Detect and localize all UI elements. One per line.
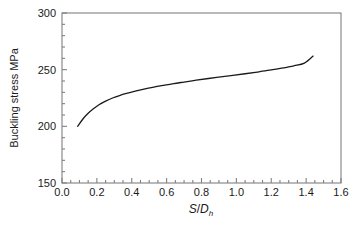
x-tick-label: 0.8 (194, 186, 209, 198)
x-tick-label: 0.2 (89, 186, 104, 198)
y-axis-tick-labels: 150200250300 (38, 7, 56, 189)
figure-container: 0.00.20.40.60.81.01.21.41.6 150200250300… (0, 0, 361, 225)
y-tick-label: 250 (38, 64, 56, 76)
y-tick-label: 150 (38, 177, 56, 189)
y-axis-title: Buckling stress MPa (8, 47, 20, 148)
x-tick-label: 0.0 (54, 186, 69, 198)
x-tick-label: 1.2 (264, 186, 279, 198)
buckling-stress-chart: 0.00.20.40.60.81.01.21.41.6 150200250300… (0, 0, 361, 225)
x-axis-title-denominator: D (200, 202, 209, 216)
x-tick-label: 1.4 (298, 186, 313, 198)
x-axis-title-subscript: h (209, 209, 214, 218)
plot-frame (62, 13, 341, 183)
x-tick-label: 0.4 (124, 186, 139, 198)
y-tick-label: 200 (38, 120, 56, 132)
x-axis-tick-labels: 0.00.20.40.60.81.01.21.41.6 (54, 186, 348, 198)
x-tick-label: 1.6 (333, 186, 348, 198)
x-tick-label: 1.0 (229, 186, 244, 198)
x-tick-label: 0.6 (159, 186, 174, 198)
x-axis-title-numerator: S (189, 202, 197, 216)
y-tick-label: 300 (38, 7, 56, 19)
x-axis-title: S/Dh (189, 202, 214, 218)
